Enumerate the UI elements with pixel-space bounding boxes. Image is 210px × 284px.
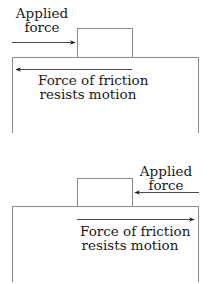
friction-line2: resists motion bbox=[80, 238, 180, 252]
applied-force-line2: force bbox=[138, 178, 194, 192]
block-bottom bbox=[78, 179, 133, 207]
friction-line1: Force of friction bbox=[38, 73, 138, 87]
applied-force-line2: force bbox=[14, 20, 70, 34]
applied-force-line1: Applied bbox=[138, 164, 194, 178]
applied-force-label-bottom: Applied force bbox=[138, 164, 194, 192]
friction-label-top: Force of friction resists motion bbox=[38, 73, 138, 101]
friction-line1: Force of friction bbox=[80, 224, 180, 238]
block-top bbox=[78, 29, 133, 58]
friction-line2: resists motion bbox=[38, 87, 138, 101]
applied-force-label-top: Applied force bbox=[14, 6, 70, 34]
applied-force-line1: Applied bbox=[14, 6, 70, 20]
friction-label-bottom: Force of friction resists motion bbox=[80, 224, 180, 252]
